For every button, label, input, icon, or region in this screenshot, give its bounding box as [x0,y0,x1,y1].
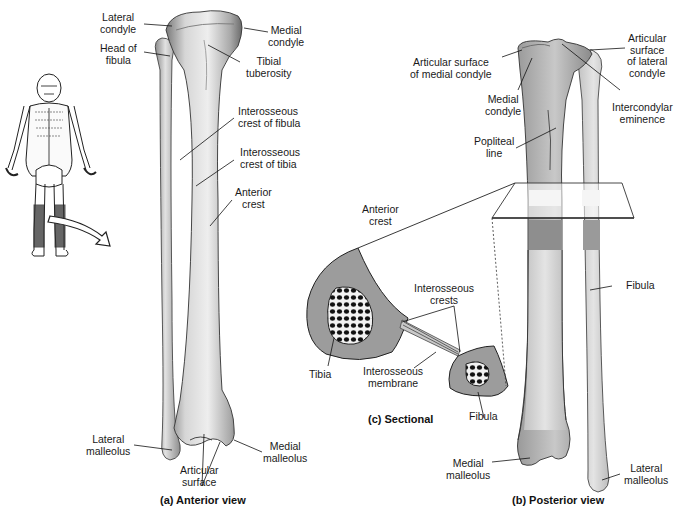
caption-sectional: (c) Sectional [368,413,433,425]
caption-posterior-view: (b) Posterior view [512,494,604,506]
label-articular-surface-lateral-condyle: Articular surface of lateral condyle [627,33,667,79]
label-interosseous-crest-tibia: Interosseous crest of tibia [240,147,300,170]
label-medial-condyle-anterior: Medial condyle [268,25,304,48]
label-interosseous-membrane: Interosseous membrane [363,366,423,389]
label-lateral-malleolus-posterior: Lateral malleolus [624,463,668,486]
anterior-fibula [155,38,180,460]
posterior-tibia [518,39,593,465]
label-fibula-posterior: Fibula [626,280,655,292]
label-popliteal-line: Popliteal line [474,136,514,159]
label-articular-surface: Articular surface [180,465,219,488]
label-fibula-section: Fibula [469,411,498,423]
label-medial-condyle-posterior: Medial condyle [485,94,521,117]
interosseous-membrane [400,320,460,356]
label-medial-malleolus-posterior: Medial malleolus [446,458,490,481]
label-anterior-crest-section: Anterior crest [362,204,399,227]
label-tibial-tuberosity: Tibial tuberosity [246,56,292,79]
label-head-of-fibula: Head of fibula [100,43,137,66]
label-anterior-crest: Anterior crest [235,187,272,210]
tibia-fibula-figure: Lateral condyle Head of fibula Medial co… [0,0,681,516]
label-lateral-condyle: Lateral condyle [100,12,136,35]
label-interosseous-crest-fibula: Interosseous crest of fibula [238,106,300,129]
tibia-cross-section [307,248,408,360]
label-medial-malleolus-anterior: Medial malleolus [263,441,307,464]
label-articular-surface-medial-condyle: Articular surface of medial condyle [410,57,492,80]
label-lateral-malleolus-anterior: Lateral malleolus [86,434,130,457]
label-tibia-section: Tibia [309,369,331,381]
label-interosseous-crests: Interosseous crests [414,283,474,306]
caption-anterior-view: (a) Anterior view [160,494,246,506]
section-plane [492,183,634,218]
label-intercondylar-eminence: Intercondylar eminence [612,102,673,125]
anterior-tibia [166,11,242,446]
posterior-fibula [578,50,609,492]
